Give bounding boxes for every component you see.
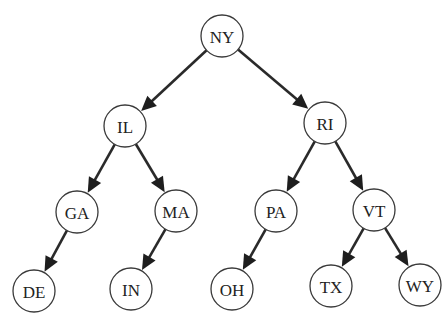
edge-ga-de [45,230,67,271]
tree-node-il: IL [104,105,146,147]
tree-node-wy: WY [399,264,441,306]
edge-line [348,228,363,255]
node-label: RI [317,115,334,134]
node-label: IL [117,118,133,137]
edge-line [249,229,265,258]
tree-node-de: DE [13,270,55,312]
tree-node-oh: OH [211,268,253,310]
tree-node-ma: MA [155,190,197,232]
arrowhead-icon [395,250,409,266]
edge-vt-wy [385,228,409,266]
arrowhead-icon [151,176,165,192]
node-label: NY [210,28,235,47]
edge-ny-ri [238,50,308,109]
tree-diagram: NYILRIGAMAPAVTDEINOHTXWY [0,0,447,326]
edges-layer [45,50,409,272]
node-label: TX [320,278,343,297]
edge-line [151,50,207,102]
tree-node-ga: GA [56,191,98,233]
nodes-layer: NYILRIGAMAPAVTDEINOHTXWY [13,15,441,312]
node-label: VT [363,202,386,221]
edge-line [335,141,357,179]
node-label: OH [220,281,245,300]
edge-ny-il [141,50,206,111]
edge-il-ma [136,144,165,192]
node-label: GA [65,204,90,223]
edge-vt-tx [342,228,364,267]
node-label: IN [122,281,140,300]
tree-node-pa: PA [255,190,297,232]
tree-node-tx: TX [310,265,352,307]
edge-line [148,229,165,258]
edge-line [238,50,298,101]
edge-line [136,144,158,181]
tree-node-ny: NY [201,15,243,57]
edge-line [385,228,402,255]
edge-line [293,141,315,180]
edge-line [94,144,115,181]
tree-node-in: IN [110,268,152,310]
edge-line [51,230,67,260]
edge-ri-vt [335,141,363,191]
tree-node-vt: VT [353,189,395,231]
node-label: PA [266,203,287,222]
edge-pa-oh [243,229,266,270]
node-label: DE [23,283,46,302]
edge-ri-pa [287,141,315,191]
node-label: WY [406,277,434,296]
edge-il-ga [88,144,115,192]
tree-node-ri: RI [304,102,346,144]
node-label: MA [162,203,190,222]
edge-ma-in [142,229,166,270]
